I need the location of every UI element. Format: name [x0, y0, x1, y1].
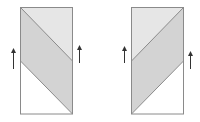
diagram-canvas [0, 0, 200, 122]
up-arrow-icon [122, 46, 127, 63]
up-arrow-icon [11, 48, 16, 69]
up-arrow-icon [77, 45, 82, 63]
left-panel [11, 8, 82, 115]
right-panel [122, 8, 193, 115]
up-arrow-icon [188, 51, 193, 69]
